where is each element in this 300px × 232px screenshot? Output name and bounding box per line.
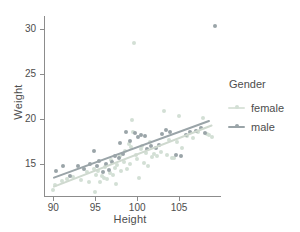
data-point-male xyxy=(128,139,132,143)
x-tick-mark xyxy=(179,197,180,201)
data-point-female xyxy=(177,114,181,118)
legend-item-female[interactable]: female xyxy=(228,99,298,116)
data-point-female xyxy=(94,173,98,177)
y-tick-label: 15 xyxy=(10,158,36,169)
legend-title: Gender xyxy=(229,78,298,90)
legend-items: femalemale xyxy=(228,99,298,135)
chart-container: Weight Height 15202530 9095100105 Gender… xyxy=(0,0,300,232)
legend-key-icon xyxy=(228,121,245,132)
legend-key-icon xyxy=(228,102,245,113)
data-point-male xyxy=(54,169,58,173)
data-point-male xyxy=(179,154,183,158)
data-point-female xyxy=(162,109,166,113)
data-point-female xyxy=(125,167,129,171)
data-point-male xyxy=(107,168,111,172)
data-point-female xyxy=(135,157,139,161)
data-point-female xyxy=(210,135,214,139)
x-tick-mark xyxy=(53,197,54,201)
data-point-female xyxy=(114,182,118,186)
x-tick-label: 95 xyxy=(80,202,110,213)
data-point-female xyxy=(155,154,159,158)
x-axis-line xyxy=(44,196,221,197)
data-point-male xyxy=(101,170,105,174)
data-point-male xyxy=(92,149,96,153)
data-point-male xyxy=(174,153,178,157)
x-tick-label: 105 xyxy=(164,202,194,213)
data-point-male xyxy=(213,24,217,28)
data-point-female xyxy=(119,169,123,173)
data-point-female xyxy=(146,164,150,168)
x-tick-mark xyxy=(137,197,138,201)
y-tick-label: 30 xyxy=(10,23,36,34)
data-point-female xyxy=(51,188,55,192)
data-point-male xyxy=(143,134,147,138)
y-tick-mark xyxy=(40,119,44,120)
data-point-female xyxy=(111,173,115,177)
data-point-female xyxy=(137,176,141,180)
y-tick-label: 25 xyxy=(10,68,36,79)
data-point-female xyxy=(105,177,109,181)
y-tick-mark xyxy=(40,74,44,75)
data-point-female xyxy=(98,180,102,184)
legend-item-male[interactable]: male xyxy=(228,118,298,135)
legend-label: male xyxy=(251,121,275,133)
x-tick-mark xyxy=(95,197,96,201)
data-point-female xyxy=(130,118,134,122)
data-point-female xyxy=(180,146,184,150)
data-point-male xyxy=(95,164,99,168)
data-point-female xyxy=(159,150,163,154)
y-tick-mark xyxy=(40,29,44,30)
legend-label: female xyxy=(251,102,284,114)
data-point-female xyxy=(132,41,136,45)
data-point-female xyxy=(191,136,195,140)
data-point-female xyxy=(79,178,83,182)
x-axis-title: Height xyxy=(40,213,220,225)
plot-panel xyxy=(45,16,221,196)
x-tick-label: 100 xyxy=(122,202,152,213)
data-point-female xyxy=(175,140,179,144)
regression-line-male xyxy=(52,120,209,179)
data-point-male xyxy=(118,141,122,145)
data-point-female xyxy=(172,156,176,160)
data-point-male xyxy=(61,164,65,168)
x-tick-label: 90 xyxy=(38,202,68,213)
data-point-female xyxy=(113,166,117,170)
data-point-male xyxy=(124,130,128,134)
legend: Gender femalemale xyxy=(228,78,298,137)
data-point-female xyxy=(201,116,205,120)
data-point-female xyxy=(165,153,169,157)
y-tick-label: 20 xyxy=(10,113,36,124)
data-point-female xyxy=(93,190,97,194)
data-point-female xyxy=(87,180,91,184)
data-point-female xyxy=(150,155,154,159)
data-point-female xyxy=(128,162,132,166)
y-tick-mark xyxy=(40,164,44,165)
